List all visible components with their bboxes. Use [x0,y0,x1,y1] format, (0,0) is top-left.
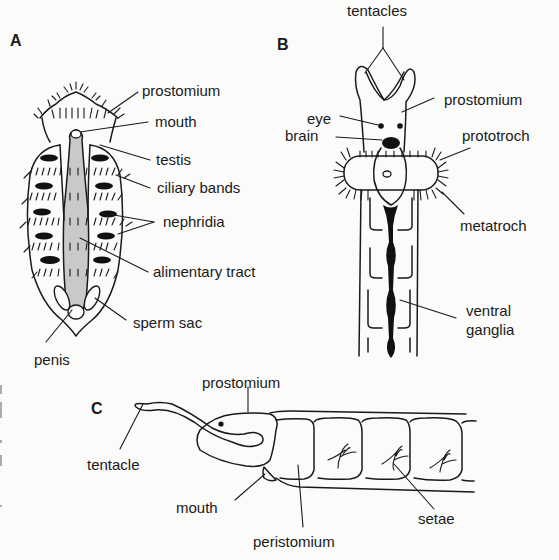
label-c-prostomium: prostomium [202,374,280,391]
label-a-nephridia: nephridia [163,213,225,230]
panel-c-segment-1 [314,418,362,480]
panel-c-tentacle-drawing [135,403,263,447]
label-b-tentacles: tentacles [347,2,407,19]
panel-b-eye-right [397,123,403,129]
label-b-brain: brain [285,127,318,144]
label-b-prostomium: prostomium [444,91,522,108]
label-c-mouth: mouth [176,499,218,516]
annelid-anatomy-figure: A [0,0,559,560]
panel-c-label: C [91,400,103,417]
panel-c: C prostomium [87,374,476,550]
label-a-ciliary-bands: ciliary bands [157,179,240,196]
label-a-mouth: mouth [155,113,197,130]
panel-a-label: A [10,32,22,49]
panel-a-mouth-drawing [71,130,81,138]
label-b-eye: eye [307,110,331,127]
panel-b: B tentacles [277,2,530,358]
panel-c-prostomium-drawing [197,413,277,466]
label-b-prototroch: prototroch [462,127,530,144]
label-c-tentacle: tentacle [87,456,140,473]
panel-b-label: B [277,36,289,53]
panel-c-eye [218,421,223,426]
panel-c-setae-drawing [328,444,456,472]
panel-a-alimentary-tract-drawing [63,130,88,318]
label-a-sperm-sac: sperm sac [133,314,203,331]
label-b-metatroch: metatroch [460,217,527,234]
label-b-ventral: ventral [466,302,511,319]
label-b-ganglia: ganglia [466,321,515,338]
panel-b-eye-left [378,123,384,129]
label-c-peristomium: peristomium [253,533,335,550]
label-a-penis: penis [34,351,70,368]
panel-a: A [10,32,256,368]
label-c-setae: setae [418,510,455,527]
panel-b-brain-drawing [382,137,400,149]
label-a-testis: testis [156,151,191,168]
label-a-alimentary-tract: alimentary tract [153,263,256,280]
panel-b-ventral-ganglia-drawing [383,205,398,358]
label-a-prostomium: prostomium [142,82,220,99]
panel-c-segment-2 [362,418,410,480]
panel-c-segment-3 [410,418,462,480]
